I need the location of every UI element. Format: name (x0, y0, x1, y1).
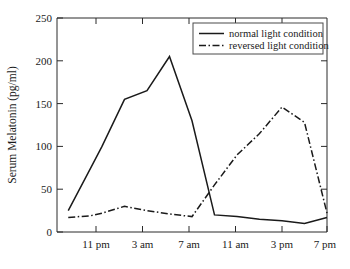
x-tick-label-11am: 11 am (222, 238, 249, 250)
legend: normal light condition reversed light co… (193, 23, 329, 54)
y-axis-label: Serum Melatonin (pg/ml) (6, 66, 19, 184)
y-tick-label-150: 150 (36, 98, 53, 110)
legend-label-reversed: reversed light condition (229, 40, 329, 51)
y-tick-label-250: 250 (36, 12, 53, 24)
x-tick-label-3pm: 3 pm (271, 238, 294, 250)
y-tick-label-0: 0 (47, 226, 53, 238)
x-tick-label-7am: 7 am (178, 238, 200, 250)
x-tick-label-7pm: 7 pm (314, 238, 337, 250)
y-tick-label-50: 50 (41, 183, 53, 195)
x-tick-label-11pm: 11 pm (82, 238, 110, 250)
melatonin-line-chart: 250 200 150 100 50 0 11 pm 3 am 7 am 11 … (0, 0, 350, 269)
y-tick-label-100: 100 (36, 140, 53, 152)
x-tick-label-3am: 3 am (132, 238, 154, 250)
legend-label-normal: normal light condition (229, 28, 324, 39)
y-tick-label-200: 200 (36, 55, 53, 67)
chart-figure: 250 200 150 100 50 0 11 pm 3 am 7 am 11 … (0, 0, 350, 269)
